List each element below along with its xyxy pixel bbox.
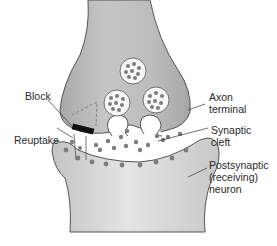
label-axon-terminal-line1: Axon <box>209 91 233 103</box>
label-postsynaptic-line3: neuron <box>209 183 242 195</box>
label-postsynaptic-line1: Postsynaptic <box>209 159 269 171</box>
synapse-diagram: Block Axon terminal Reuptake Synaptic cl… <box>0 0 277 246</box>
vesicle-left <box>104 90 130 116</box>
label-synaptic-cleft-line2: cleft <box>211 136 230 148</box>
vesicle-top <box>120 58 146 84</box>
label-reuptake: Reuptake <box>14 134 59 146</box>
label-postsynaptic-line2: (receiving) <box>209 171 258 183</box>
vesicle-right <box>143 87 169 113</box>
label-synaptic-cleft-line1: Synaptic <box>211 124 251 136</box>
label-block: Block <box>25 90 51 102</box>
label-axon-terminal-line2: terminal <box>209 103 246 115</box>
